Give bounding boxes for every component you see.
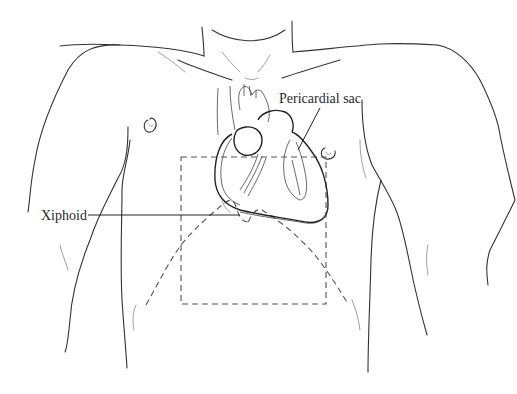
dashed-square-region	[181, 157, 326, 304]
pericardial-sac-leader-line	[298, 108, 320, 150]
pericardial-sac-label: Pericardial sac	[279, 92, 361, 106]
shoulder-outline	[60, 44, 437, 80]
left-arm-outline	[28, 45, 136, 368]
xiphoid-label: Xiphoid	[41, 209, 87, 223]
chest-heart-diagram: Pericardial sac Xiphoid	[0, 0, 517, 394]
left-costal-margin	[146, 200, 248, 305]
diagram-canvas	[0, 0, 517, 394]
right-costal-margin	[248, 210, 348, 304]
right-arm-outline	[352, 45, 515, 372]
neck-outline	[202, 21, 293, 80]
left-nipple	[144, 118, 156, 132]
